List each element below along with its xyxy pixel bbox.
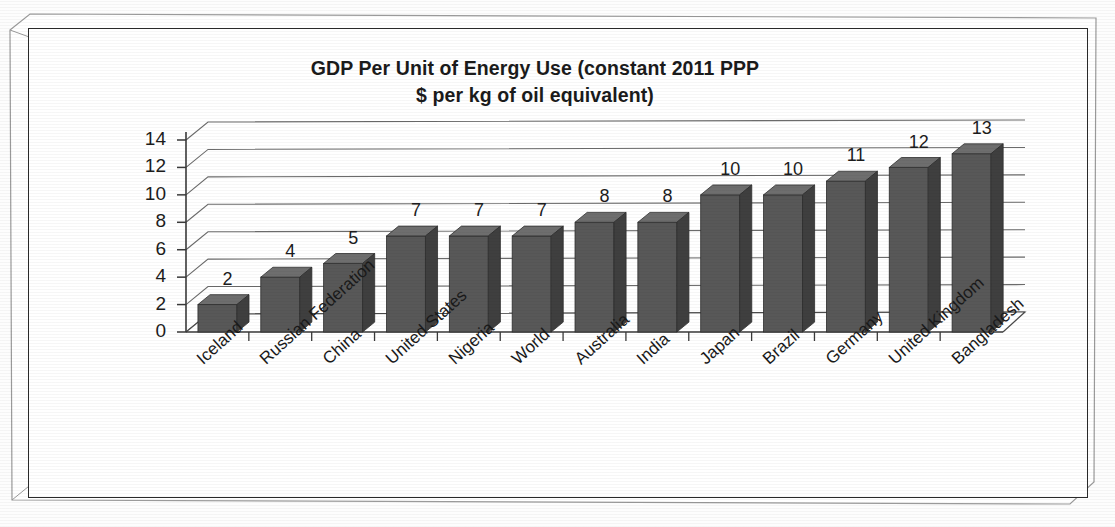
bar-value-label: 2 (208, 269, 248, 290)
chart-title-line2: $ per kg of oil equivalent) (205, 82, 865, 109)
chart-title-line1: GDP Per Unit of Energy Use (constant 201… (205, 55, 865, 82)
bar-value-label: 8 (585, 186, 625, 207)
y-axis-tick-label: 14 (120, 128, 166, 150)
y-axis-tick-label: 4 (120, 265, 166, 287)
chart-title: GDP Per Unit of Energy Use (constant 201… (205, 55, 865, 109)
bar-value-label: 7 (459, 200, 499, 221)
y-axis-tick-label: 10 (120, 183, 166, 205)
bar-value-label: 11 (836, 145, 876, 166)
y-axis-tick-label: 6 (120, 238, 166, 260)
y-axis-tick-label: 0 (120, 320, 166, 342)
bar-value-label: 7 (396, 200, 436, 221)
chart-page: GDP Per Unit of Energy Use (constant 201… (0, 0, 1115, 527)
bar-value-label: 5 (333, 228, 373, 249)
bar-value-label: 7 (522, 200, 562, 221)
bar-value-label: 8 (647, 186, 687, 207)
y-axis-tick-label: 8 (120, 210, 166, 232)
y-axis-tick-label: 12 (120, 155, 166, 177)
bar-value-label: 4 (270, 241, 310, 262)
bar-value-label: 13 (962, 118, 1002, 139)
y-axis-tick-label: 2 (120, 293, 166, 315)
bar-value-label: 10 (710, 159, 750, 180)
bar-value-label: 10 (773, 159, 813, 180)
bar-value-label: 12 (899, 132, 939, 153)
